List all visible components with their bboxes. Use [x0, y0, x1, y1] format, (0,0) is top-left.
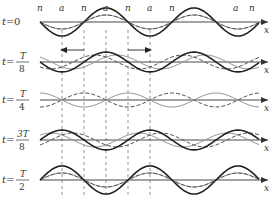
time-denominator: 8	[19, 64, 25, 74]
standing-wave-diagram: xt=0xt=T8xt=T4xt=3T8xt=T2nanananan	[0, 0, 279, 210]
node-label: n	[81, 3, 87, 13]
time-denominator: 4	[19, 102, 25, 112]
time-label: t=	[2, 94, 14, 105]
time-denominator: 2	[19, 182, 25, 192]
time-label: t=	[2, 174, 14, 185]
axis-label: x	[264, 103, 269, 113]
node-label: n	[37, 3, 43, 13]
time-numerator: T	[20, 51, 27, 61]
time-label: t=	[2, 134, 14, 145]
left-arrow-icon	[60, 47, 67, 53]
antinode-label: a	[59, 3, 64, 13]
axis-label: x	[264, 143, 269, 153]
antinode-label: a	[147, 3, 152, 13]
axis-label: x	[264, 183, 269, 193]
node-label: n	[125, 3, 131, 13]
time-value: 0	[14, 16, 20, 27]
time-numerator: T	[20, 89, 27, 99]
axis-label: x	[264, 25, 269, 35]
node-label: n	[169, 3, 175, 13]
time-label: t=	[2, 56, 14, 67]
time-numerator: 3T	[17, 129, 30, 139]
time-denominator: 8	[19, 142, 25, 152]
right-arrow-icon	[145, 47, 152, 53]
antinode-label: a	[103, 3, 108, 13]
axis-label: x	[264, 65, 269, 75]
time-label: t=	[2, 16, 14, 27]
antinode-label: a	[233, 3, 238, 13]
time-numerator: T	[20, 169, 27, 179]
node-label: n	[249, 3, 255, 13]
